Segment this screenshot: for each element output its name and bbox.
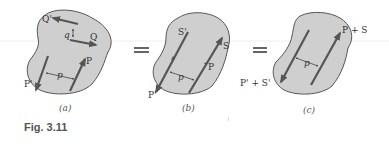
sublabel-c: (c): [303, 105, 316, 115]
label-P-prime: P': [24, 79, 33, 89]
label-Q: Q: [90, 32, 97, 42]
figure-caption: Fig. 3.11: [24, 121, 67, 133]
panel-b: S' S P' P p (b): [148, 13, 230, 113]
scan-artifact: [228, 117, 229, 121]
label-Q-prime: Q': [42, 14, 52, 24]
rigid-body-b: [153, 13, 229, 94]
label-P-prime: P': [148, 90, 157, 100]
label-P: P: [208, 62, 214, 72]
sublabel-a: (a): [59, 103, 72, 113]
label-S: S: [223, 41, 229, 51]
label-p: p: [304, 58, 310, 68]
equals-sign-1: [134, 47, 149, 53]
panel-c: P + S P' + S' p (c): [240, 12, 367, 115]
label-p: p: [57, 70, 63, 80]
equals-sign-2: [253, 47, 267, 53]
panel-a: Q' Q q P' P p (a): [24, 10, 111, 113]
label-P-prime-plus-S-prime: P' + S': [240, 78, 270, 88]
label-q: q: [64, 30, 70, 40]
label-p: p: [178, 72, 184, 82]
label-P: P: [86, 56, 92, 66]
label-P-plus-S: P + S: [342, 25, 367, 35]
sublabel-b: (b): [182, 103, 195, 113]
label-S-prime: S': [178, 27, 187, 37]
